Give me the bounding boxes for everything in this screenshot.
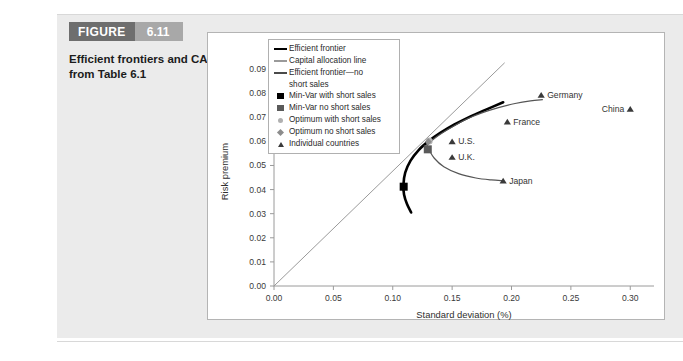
legend-key-glyph: [277, 93, 284, 100]
figure-header: FIGURE 6.11: [69, 22, 183, 41]
country-label-u-k-: U.K.: [458, 152, 475, 162]
x-axis-tick-label: 0.05: [325, 293, 342, 303]
legend-key-optimum-no-short-sales-icon: [272, 126, 289, 138]
legend-key-min-var-short-sales-icon: [272, 90, 289, 102]
x-axis-tick-label: 0.15: [444, 293, 461, 303]
y-axis-title: Risk premium: [219, 143, 230, 200]
legend-key-optimum-short-sales-icon: [272, 114, 289, 126]
legend-item-label: Efficient frontier—no short sales: [289, 67, 363, 90]
country-label-germany: Germany: [547, 90, 583, 100]
legend-item-label: Individual countries: [289, 138, 359, 150]
chart-legend: Efficient frontierCapital allocation lin…: [268, 39, 400, 154]
legend-item-label: Capital allocation line: [289, 55, 366, 67]
figure-number-label: 6.11: [135, 22, 184, 41]
legend-item-label: Optimum no short sales: [289, 126, 375, 138]
marker-min-var-with-short-sales: [400, 183, 408, 191]
country-label-china: China: [602, 104, 625, 114]
x-axis-tick-label: 0.00: [266, 293, 283, 303]
legend-key-glyph: [278, 142, 284, 147]
country-label-france: France: [513, 117, 540, 127]
country-marker-france: [504, 119, 511, 125]
page-canvas: FIGURE 6.11 Efficient frontiers and CAL …: [0, 0, 683, 361]
figure-caption: Efficient frontiers and CAL from Table 6…: [69, 52, 219, 82]
legend-key-glyph: [274, 72, 287, 73]
legend-item: Optimum no short sales: [272, 126, 395, 138]
legend-item: Min-Var no short sales: [272, 102, 395, 114]
y-axis-tick-label: 0.04: [249, 185, 266, 195]
country-marker-u-s-: [449, 139, 456, 145]
legend-item-label: Min-Var no short sales: [289, 102, 370, 114]
legend-key-min-var-no-short-sales-icon: [272, 102, 289, 114]
legend-key-glyph: [274, 48, 287, 51]
legend-key-efficient-frontier-icon: [272, 43, 289, 55]
y-axis-tick-label: 0.03: [249, 209, 266, 219]
x-axis-tick-label: 0.25: [563, 293, 580, 303]
y-axis-tick-label: 0.08: [249, 88, 266, 98]
x-axis-tick-label: 0.20: [503, 293, 520, 303]
legend-key-glyph: [277, 128, 284, 135]
legend-item: Optimum with short sales: [272, 114, 395, 126]
x-axis-tick-label: 0.30: [622, 293, 639, 303]
legend-key-glyph: [277, 105, 284, 112]
legend-key-individual-countries-icon: [272, 138, 289, 150]
country-marker-china: [627, 106, 634, 112]
legend-key-glyph: [278, 118, 283, 123]
x-axis-title: Standard deviation (%): [416, 309, 511, 320]
y-axis-tick-label: 0.05: [249, 160, 266, 170]
legend-item: Individual countries: [272, 138, 395, 150]
page-rule-bottom: [57, 341, 683, 342]
legend-key-efficient-frontier-no-short-sales-icon: [272, 67, 289, 79]
legend-item: Capital allocation line: [272, 55, 395, 67]
country-marker-germany: [538, 92, 545, 98]
marker-min-var-no-short-sales: [424, 145, 432, 153]
legend-key-capital-allocation-line-icon: [272, 55, 289, 67]
y-axis-tick-label: 0.02: [249, 233, 266, 243]
x-axis-tick-label: 0.10: [384, 293, 401, 303]
legend-item-label: Optimum with short sales: [289, 114, 381, 126]
y-axis-tick-label: 0.07: [249, 112, 266, 122]
country-label-u-s-: U.S.: [458, 136, 475, 146]
legend-item-label: Min-Var with short sales: [289, 90, 376, 102]
figure-word-label: FIGURE: [69, 22, 135, 41]
legend-item: Efficient frontier: [272, 43, 395, 55]
y-axis-tick-label: 0.09: [249, 64, 266, 74]
y-axis-tick-label: 0.00: [249, 281, 266, 291]
legend-key-glyph: [274, 60, 287, 61]
legend-item-label: Efficient frontier: [289, 43, 346, 55]
chart-panel: 0.000.010.020.030.040.050.060.070.080.09…: [207, 32, 665, 320]
legend-item: Efficient frontier—no short sales: [272, 67, 395, 90]
country-label-japan: Japan: [509, 176, 533, 186]
y-axis-tick-label: 0.06: [249, 136, 266, 146]
country-marker-u-k-: [449, 154, 456, 160]
legend-item: Min-Var with short sales: [272, 90, 395, 102]
y-axis-tick-label: 0.01: [249, 257, 266, 267]
